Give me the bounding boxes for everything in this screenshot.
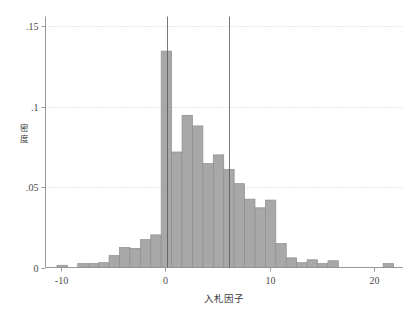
histogram-bar bbox=[255, 208, 265, 268]
y-tick-label: .05 bbox=[26, 182, 39, 193]
histogram-bar bbox=[99, 263, 109, 268]
x-tick-label: -10 bbox=[55, 275, 68, 286]
chart-canvas: 0.05.1.15 -1001020 密 度 入札因子 bbox=[0, 0, 411, 314]
histogram-bar bbox=[265, 200, 275, 267]
histogram-bar bbox=[203, 164, 213, 268]
x-tick-label: 0 bbox=[163, 275, 168, 286]
histogram-bar bbox=[182, 115, 192, 267]
y-tick-label: 0 bbox=[34, 263, 39, 274]
y-axis-title-char-2: 度 bbox=[20, 134, 29, 144]
histogram-bar bbox=[109, 256, 119, 268]
histogram-bar bbox=[151, 235, 161, 268]
histogram-bar bbox=[140, 240, 150, 268]
histogram-bar bbox=[234, 184, 244, 268]
x-axis-title: 入札因子 bbox=[204, 293, 244, 304]
histogram-bar bbox=[161, 51, 171, 267]
histogram-bar bbox=[318, 264, 328, 268]
histogram-bar bbox=[245, 199, 255, 267]
histogram-bar bbox=[307, 260, 317, 268]
y-tick-label: .15 bbox=[26, 21, 39, 32]
y-axis-title-char-1: 密 bbox=[20, 123, 29, 133]
histogram-bar bbox=[224, 169, 234, 267]
histogram-bar bbox=[88, 264, 98, 268]
histogram-chart: 0.05.1.15 -1001020 密 度 入札因子 bbox=[0, 0, 411, 314]
histogram-bar bbox=[213, 155, 223, 268]
histogram-bar bbox=[383, 264, 393, 268]
histogram-bar bbox=[78, 264, 88, 268]
histogram-bar bbox=[276, 244, 286, 268]
y-tick-label: .1 bbox=[31, 102, 39, 113]
x-tick-label: 20 bbox=[370, 275, 380, 286]
histogram-bar bbox=[120, 247, 130, 267]
histogram-bar bbox=[172, 152, 182, 268]
x-tick-label: 10 bbox=[266, 275, 276, 286]
histogram-bar bbox=[130, 248, 140, 267]
histogram-bar bbox=[192, 126, 202, 268]
histogram-bar bbox=[328, 261, 338, 268]
histogram-bar bbox=[286, 258, 296, 268]
histogram-bar bbox=[297, 263, 307, 268]
histogram-bar bbox=[57, 265, 67, 267]
